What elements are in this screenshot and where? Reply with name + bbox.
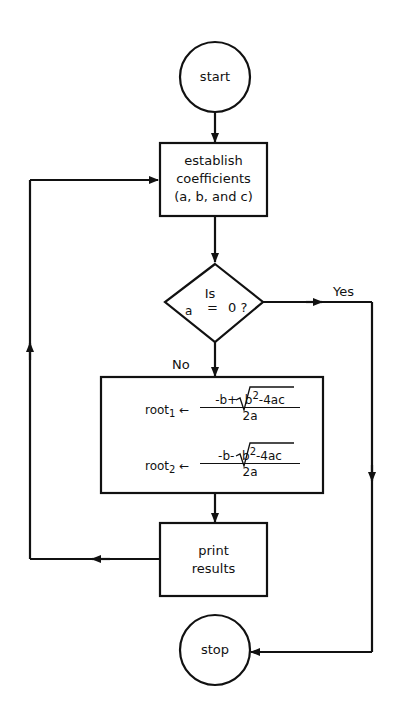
decision-value: 0 ? (228, 299, 247, 317)
root1-num-pre: -b+ (215, 393, 237, 407)
root1-assignment: root1 ← (145, 403, 189, 419)
start-label: start (200, 69, 230, 84)
no-branch-label: No (172, 356, 190, 374)
print-process-box: print results (160, 542, 267, 578)
print-line-2: results (160, 560, 267, 578)
root2-assignment: root2 ← (145, 459, 189, 475)
flowchart-canvas (0, 0, 395, 723)
root2-fraction: -b- b2-4ac 2a (200, 444, 300, 479)
root1-fraction: -b+ b2-4ac 2a (200, 388, 300, 423)
establish-line-2: coefficients (160, 170, 267, 188)
root1-radicand-rest: -4ac (259, 393, 285, 407)
root2-radicand-base: b (242, 449, 250, 463)
establish-line-3: (a, b, and c) (160, 188, 267, 206)
yes-branch-label: Yes (333, 283, 354, 301)
root2-radicand-rest: -4ac (256, 449, 282, 463)
root2-denominator: 2a (200, 464, 300, 479)
stop-label: stop (201, 642, 229, 657)
root2-num-pre: -b- (218, 449, 234, 463)
root1-subscript: 1 (169, 408, 175, 419)
stop-terminal: stop (180, 641, 250, 659)
root1-name: root (145, 403, 169, 417)
print-line-1: print (160, 542, 267, 560)
establish-line-1: establish (160, 152, 267, 170)
root1-denominator: 2a (200, 408, 300, 423)
root2-subscript: 2 (169, 464, 175, 475)
decision-operator: = (207, 299, 218, 317)
establish-process-box: establish coefficients (a, b, and c) (160, 152, 267, 206)
root2-assign-arrow: ← (179, 459, 189, 473)
root1-assign-arrow: ← (179, 403, 189, 417)
decision-variable: a (185, 302, 192, 320)
start-terminal: start (180, 68, 250, 86)
root2-name: root (145, 459, 169, 473)
